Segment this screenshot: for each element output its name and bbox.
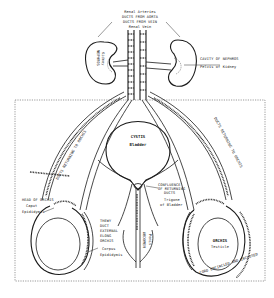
label-epididymis-head: Epididymis [22, 210, 45, 214]
central-vessels [128, 30, 146, 100]
label-head-of-orchis: HEAD OF ORCHIS [22, 198, 54, 202]
label-cavity-of-nephros: CAVITY OF NEPHROS [200, 57, 238, 61]
label-bladder: Bladder [130, 142, 147, 147]
label-caput: Caput [26, 204, 37, 208]
label-kidney: Kidney [101, 52, 105, 66]
label-confluence-3: DUCTS [164, 191, 175, 195]
label-pelvis-of-kidney: Pelvis of Kidney [200, 65, 237, 69]
label-left-ducts: DUCTS RETURNING TO ORCHIS [55, 129, 87, 180]
right-kidney [146, 40, 220, 86]
label-right-ducts: DUCTS RETURNING TO ORCHIS [213, 117, 243, 169]
anatomical-diagram: Renal Arteries DUCTS FROM AORTA DUCTS FR… [0, 0, 274, 298]
label-ducts-from-aorta: DUCTS FROM AORTA [122, 15, 159, 19]
label-renal-vein: Renal Vein [129, 25, 152, 29]
right-descending-ducts [142, 92, 232, 210]
label-duct-1: THEWY [100, 219, 112, 223]
label-corpus: Corpus [102, 247, 116, 251]
label-cystis: CYSTIS [131, 134, 146, 139]
left-kidney [86, 42, 128, 84]
urethra [118, 184, 158, 269]
label-duct-5: ORCHIS [100, 239, 114, 243]
label-abdomen: ABDOMEN [142, 232, 146, 248]
label-trigone: Trigone [164, 198, 180, 202]
label-corpus-epididymis: Epididymis [100, 253, 123, 257]
label-nephros: NEPHROS [96, 50, 100, 66]
label-duct-4: ELONG [100, 234, 111, 238]
label-duct-3: EXTERNAL [100, 229, 118, 233]
label-renal-arteries: Renal Arteries [124, 10, 156, 14]
label-of-bladder: of Bladder [160, 203, 183, 207]
label-testicle: Testicle [211, 245, 229, 249]
label-duct-2: DUCT [100, 224, 110, 228]
label-penis: Penis [148, 234, 152, 245]
ureters [30, 160, 178, 182]
label-orchis: ORCHIS [213, 238, 228, 243]
label-ducts-from-vein: DUCTS FROM VEIN [123, 20, 157, 24]
left-descending-ducts [42, 92, 132, 210]
